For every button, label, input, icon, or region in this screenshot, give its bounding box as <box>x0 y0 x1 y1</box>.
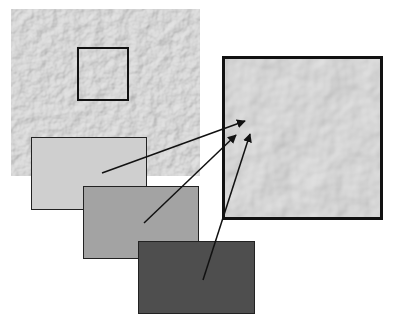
selection-region-box <box>77 47 129 101</box>
magnified-view-panel <box>222 56 383 220</box>
diagram-canvas <box>0 0 393 323</box>
magnified-texture-icon <box>225 59 380 217</box>
swatch-dark-gray <box>138 241 255 314</box>
